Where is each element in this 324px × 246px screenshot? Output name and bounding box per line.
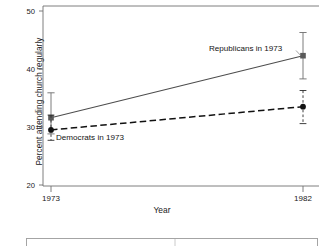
y-tick-label-40: 40 [11, 65, 35, 74]
democrat-marker-1973 [48, 127, 54, 133]
republicans-series-label: Republicans in 1973 [209, 44, 282, 53]
republican-annotation-leader [296, 51, 300, 56]
y-tick-label-50: 50 [11, 7, 35, 16]
bottom-table-fragment [26, 239, 318, 246]
x-axis-label: Year [0, 205, 324, 215]
x-tick-label-1973: 1973 [29, 194, 73, 203]
y-tick-label-30: 30 [11, 123, 35, 132]
republican-marker-1982 [300, 53, 306, 59]
democrats-series-label: Democrats in 1973 [56, 133, 124, 142]
y-tick-label-20: 20 [11, 181, 35, 190]
chart-figure: Percent attending church regularly 50 40… [0, 0, 324, 246]
democrat-line [51, 107, 303, 130]
democrat-marker-1982 [300, 104, 306, 110]
y-axis-label: Percent attending church regularly [35, 17, 44, 187]
republican-line [51, 56, 303, 118]
x-tick-label-1982: 1982 [281, 194, 324, 203]
